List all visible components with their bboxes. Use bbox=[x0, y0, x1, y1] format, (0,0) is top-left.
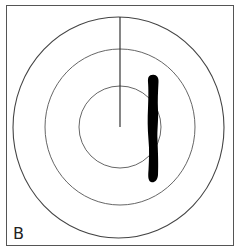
concentric-rings-diagram bbox=[0, 0, 240, 251]
black-blob bbox=[148, 75, 159, 182]
panel-label: B bbox=[13, 226, 24, 242]
